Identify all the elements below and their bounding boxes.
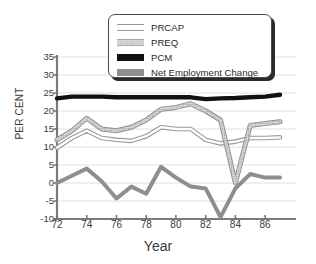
chart-legend: PRCAPPREQPCMNet Employment Change xyxy=(108,14,272,78)
chart-figure: PER CENT Year 35302520151050-5-10 727476… xyxy=(0,0,316,264)
legend-item-prcap[interactable]: PRCAP xyxy=(117,20,271,34)
legend-item-pcm[interactable]: PCM xyxy=(117,50,271,64)
pcm-swatch xyxy=(117,54,144,61)
series-pcm xyxy=(57,95,280,99)
prcap-swatch xyxy=(117,24,144,31)
preq-swatch xyxy=(117,39,144,46)
legend-label: PREQ xyxy=(151,37,178,48)
legend-label: PCM xyxy=(151,52,172,63)
legend-label: Net Employment Change xyxy=(151,67,258,78)
legend-label: PRCAP xyxy=(151,22,184,33)
legend-item-net-employment-change[interactable]: Net Employment Change xyxy=(117,65,271,79)
legend-item-preq[interactable]: PREQ xyxy=(117,35,271,49)
series-net-employment-change xyxy=(57,167,280,217)
nec-swatch xyxy=(117,69,144,76)
